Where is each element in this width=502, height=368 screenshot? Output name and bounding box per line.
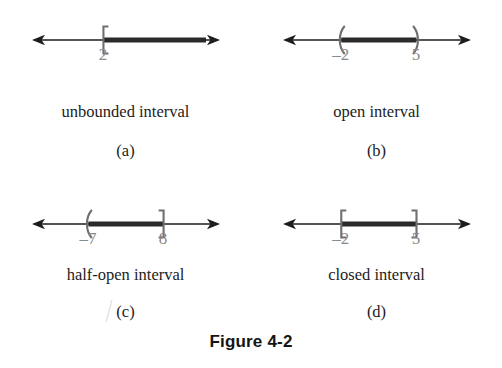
panel-a-letter: (a) — [116, 143, 134, 160]
panel-b: –2 5 open interval (b) — [251, 0, 502, 184]
panel-b-letter: (b) — [367, 143, 386, 160]
panel-d-caption: closed interval — [328, 267, 425, 284]
figure-caption: Figure 4-2 — [0, 332, 502, 352]
panel-d-letter: (d) — [367, 304, 386, 321]
interval-figure-grid: 2 unbounded interval (a) –2 5 open inter… — [0, 0, 502, 320]
panel-c: –7 8 half-open interval (c) — [0, 184, 251, 320]
number-line-d: –2 5 — [277, 200, 477, 245]
panel-c-caption: half-open interval — [67, 267, 185, 284]
panel-a: 2 unbounded interval (a) — [0, 0, 251, 184]
number-line-b: –2 5 — [277, 16, 477, 78]
number-line-b-graphic — [277, 16, 477, 78]
number-line-c-graphic — [26, 200, 226, 262]
number-line-d-graphic — [277, 200, 477, 262]
panel-a-caption: unbounded interval — [62, 104, 190, 121]
number-line-c: –7 8 — [26, 200, 226, 245]
number-line-a: 2 — [26, 16, 226, 78]
panel-b-caption: open interval — [333, 104, 420, 121]
panel-d: –2 5 closed interval (d) — [251, 184, 502, 320]
number-line-a-graphic — [26, 16, 226, 78]
panel-c-letter: (c) — [116, 304, 134, 321]
